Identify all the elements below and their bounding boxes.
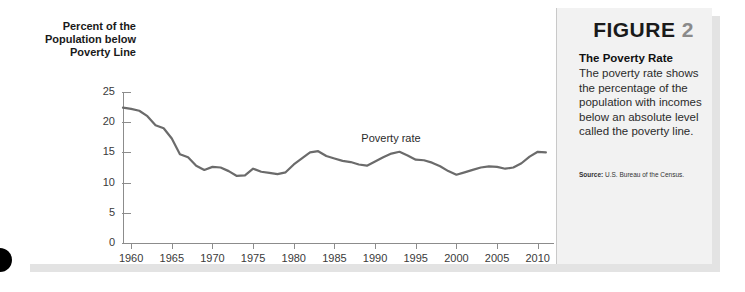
- x-tick-label-1960: 1960: [111, 252, 151, 264]
- x-tick-1970: [212, 243, 213, 249]
- x-tick-1960: [131, 243, 132, 249]
- x-tick-2005: [497, 243, 498, 249]
- x-tick-2000: [456, 243, 457, 249]
- source-label: Source:: [579, 171, 603, 178]
- x-tick-label-1970: 1970: [192, 252, 232, 264]
- edge-bullet-decoration: [0, 248, 12, 272]
- x-tick-1980: [294, 243, 295, 249]
- x-tick-label-2010: 2010: [518, 252, 558, 264]
- x-axis-line: [123, 243, 554, 244]
- x-tick-label-1990: 1990: [355, 252, 395, 264]
- info-title: The Poverty Rate: [579, 52, 673, 64]
- y-tick-0: [122, 243, 131, 244]
- info-pane: FIGURE 2 The Poverty Rate The poverty ra…: [557, 8, 712, 264]
- y-axis-title: Percent of the Population below Poverty …: [40, 20, 136, 59]
- x-tick-1985: [334, 243, 335, 249]
- x-tick-label-1985: 1985: [314, 252, 354, 264]
- info-source: Source: U.S. Bureau of the Census.: [579, 171, 719, 178]
- x-tick-label-2005: 2005: [477, 252, 517, 264]
- info-body: The poverty rate shows the percentage of…: [579, 66, 709, 139]
- x-tick-label-1980: 1980: [274, 252, 314, 264]
- series-annotation-poverty-rate: Poverty rate: [361, 132, 420, 144]
- figure-card: Percent of the Population below Poverty …: [22, 8, 712, 264]
- x-tick-1990: [375, 243, 376, 249]
- figure-heading: FIGURE 2: [593, 18, 694, 42]
- figure-heading-word: FIGURE: [593, 18, 675, 41]
- y-tick-label-20: 20: [89, 115, 115, 127]
- source-text: U.S. Bureau of the Census.: [605, 171, 684, 178]
- poverty-rate-line-chart: [123, 92, 554, 243]
- x-tick-label-1995: 1995: [396, 252, 436, 264]
- x-tick-1975: [253, 243, 254, 249]
- y-tick-label-25: 25: [89, 85, 115, 97]
- chart-pane: Percent of the Population below Poverty …: [22, 8, 556, 264]
- x-tick-label-1965: 1965: [152, 252, 192, 264]
- y-tick-label-15: 15: [89, 145, 115, 157]
- x-tick-1965: [172, 243, 173, 249]
- y-tick-label-0: 0: [89, 236, 115, 248]
- x-tick-2010: [538, 243, 539, 249]
- y-tick-label-5: 5: [89, 206, 115, 218]
- y-tick-label-10: 10: [89, 176, 115, 188]
- figure-heading-number: 2: [682, 18, 694, 41]
- x-tick-label-1975: 1975: [233, 252, 273, 264]
- x-tick-1995: [416, 243, 417, 249]
- plot-area: 0510152025 19601965197019751980198519901…: [123, 92, 554, 243]
- x-tick-label-2000: 2000: [436, 252, 476, 264]
